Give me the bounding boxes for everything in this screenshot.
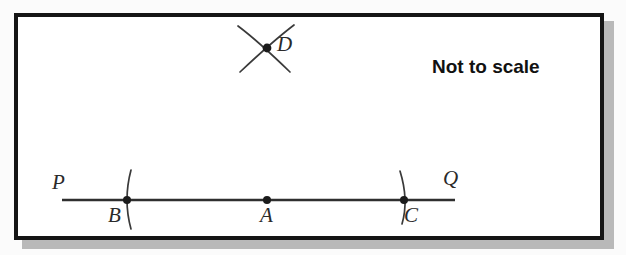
point-label-c: C (404, 205, 418, 226)
point-label-a: A (260, 205, 273, 226)
point-label-b: B (108, 205, 121, 226)
point-dot-d (263, 44, 272, 53)
point-markers (123, 44, 408, 204)
point-dot-b (123, 196, 131, 204)
point-label-d: D (277, 34, 292, 55)
diagram-canvas: P Q A B C D Not to scale (0, 0, 626, 255)
geometry-figure (0, 0, 626, 255)
point-label-q: Q (443, 168, 458, 189)
not-to-scale-note: Not to scale (432, 57, 540, 76)
point-label-p: P (52, 172, 65, 193)
